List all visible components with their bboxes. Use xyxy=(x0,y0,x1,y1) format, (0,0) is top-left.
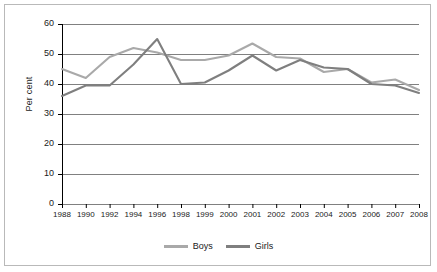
x-tick-label: 1990 xyxy=(73,210,99,219)
chart-frame: Per cent 0102030405060 19881990199219941… xyxy=(4,4,431,266)
x-tick-label: 2007 xyxy=(382,210,408,219)
x-tick-label: 2003 xyxy=(287,210,313,219)
series-line-girls xyxy=(62,39,419,96)
y-tick-label: 20 xyxy=(32,138,54,148)
chart-legend: BoysGirls xyxy=(5,241,432,251)
x-tick-label: 1999 xyxy=(192,210,218,219)
legend-swatch-icon xyxy=(164,245,188,248)
x-tick-label: 1988 xyxy=(49,210,75,219)
x-tick-label: 2008 xyxy=(406,210,432,219)
x-tick-label: 2001 xyxy=(239,210,265,219)
legend-swatch-icon xyxy=(226,245,250,248)
x-tick-label: 2002 xyxy=(263,210,289,219)
x-tick-label: 1992 xyxy=(97,210,123,219)
y-tick-label: 0 xyxy=(32,198,54,208)
x-tick-label: 1994 xyxy=(120,210,146,219)
y-tick-label: 30 xyxy=(32,108,54,118)
x-tick-label: 1998 xyxy=(168,210,194,219)
series-line-boys xyxy=(62,44,419,91)
y-axis-title: Per cent xyxy=(24,49,34,139)
line-chart: Per cent 0102030405060 19881990199219941… xyxy=(5,5,432,267)
chart-plot-area xyxy=(5,5,432,267)
x-tick-label: 2006 xyxy=(358,210,384,219)
y-tick-label: 40 xyxy=(32,78,54,88)
x-tick-label: 2005 xyxy=(335,210,361,219)
y-tick-label: 50 xyxy=(32,48,54,58)
legend-label: Boys xyxy=(193,241,213,251)
legend-item-girls[interactable]: Girls xyxy=(226,241,274,251)
x-tick-label: 1996 xyxy=(144,210,170,219)
legend-label: Girls xyxy=(255,241,274,251)
y-tick-label: 60 xyxy=(32,18,54,28)
x-tick-label: 2004 xyxy=(311,210,337,219)
x-tick-label: 2000 xyxy=(216,210,242,219)
y-tick-label: 10 xyxy=(32,168,54,178)
legend-item-boys[interactable]: Boys xyxy=(164,241,213,251)
